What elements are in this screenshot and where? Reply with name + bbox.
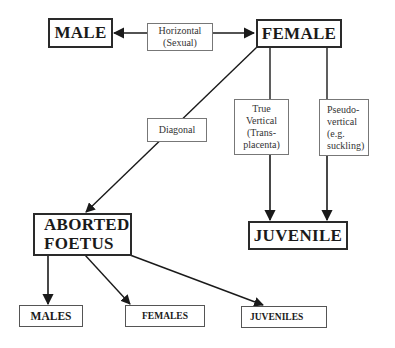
node-aborted-foetus-line1: ABORTED	[44, 215, 130, 234]
node-male: MALE	[48, 18, 113, 48]
node-juvenile: JUVENILE	[248, 221, 348, 250]
node-juveniles: JUVENILES	[241, 306, 327, 328]
node-female: FEMALE	[256, 19, 342, 48]
edge-label-pseudo-vertical-line3: (e.g.	[327, 128, 345, 140]
edge-label-horizontal-line2: (Sexual)	[163, 37, 197, 49]
edge-label-diagonal-text: Diagonal	[159, 124, 196, 136]
node-females: FEMALES	[125, 305, 205, 327]
edge-label-true-vertical-line3: (Trans-	[247, 127, 276, 139]
node-juvenile-label: JUVENILE	[254, 226, 342, 246]
edge-label-diagonal: Diagonal	[147, 118, 207, 142]
edge-label-pseudo-vertical-line4: suckling)	[327, 140, 364, 152]
node-females-label: FEMALES	[142, 311, 188, 321]
edge-label-true-vertical: True Vertical (Trans- placenta)	[234, 99, 289, 155]
edge-label-true-vertical-line2: Vertical	[246, 115, 277, 127]
edge-label-horizontal: Horizontal (Sexual)	[147, 23, 213, 51]
node-male-label: MALE	[54, 23, 106, 43]
edge-label-true-vertical-line4: placenta)	[243, 139, 280, 151]
node-males: MALES	[19, 305, 83, 327]
connector-layer	[0, 0, 395, 348]
node-aborted-foetus: ABORTED FOETUS	[33, 213, 132, 256]
edge-label-true-vertical-line1: True	[252, 103, 271, 115]
node-juveniles-label: JUVENILES	[250, 312, 303, 322]
node-males-label: MALES	[31, 310, 72, 322]
edge-label-pseudo-vertical-line1: Pseudo-	[327, 104, 359, 116]
node-aborted-foetus-line2: FOETUS	[44, 234, 114, 253]
foetus-to-juveniles-edge	[130, 255, 263, 305]
node-female-label: FEMALE	[262, 24, 337, 44]
edge-label-horizontal-line1: Horizontal	[159, 25, 202, 37]
edge-label-pseudo-vertical-line2: vertical	[327, 116, 357, 128]
edge-label-pseudo-vertical: Pseudo- vertical (e.g. suckling)	[319, 99, 369, 156]
foetus-to-females-edge	[85, 255, 130, 304]
